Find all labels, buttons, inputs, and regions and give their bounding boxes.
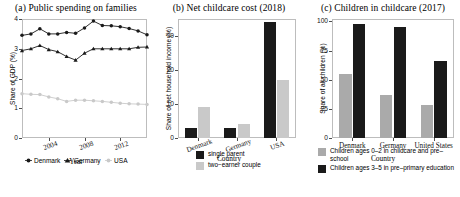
panel-c-legend: Children ages 0–2 in childcare and pre–s… (318, 147, 460, 175)
axis-tick (329, 51, 332, 52)
y-tick-label: 0 (307, 134, 328, 141)
bar-denmark-single-parent (185, 128, 197, 138)
data-point (47, 95, 51, 99)
legend-item[interactable]: Children ages 0–2 in childcare and pre–s… (318, 147, 460, 162)
legend-label: Denmark (34, 157, 60, 164)
bar-usa-two-earner-couple (277, 80, 289, 138)
legend-label: Germany (74, 157, 101, 164)
axis-tick (393, 138, 394, 141)
bar-denmark-children-ages-3-5-in-pre-primary-education (353, 24, 365, 138)
data-point (92, 19, 96, 23)
circle-marker-icon (25, 157, 32, 164)
data-point (56, 32, 60, 36)
legend-label: single parent (208, 150, 245, 158)
data-point (56, 97, 60, 101)
bar-germany-two-earner-couple (238, 124, 250, 138)
figure-three-panel-childcare: (a) Public spending on families Share of… (0, 0, 460, 197)
y-tick-label: 25 (307, 105, 328, 112)
panel-a-legend: DenmarkGermanyUSA (0, 157, 152, 164)
axis-tick (19, 79, 22, 80)
legend-item-denmark[interactable]: Denmark (25, 157, 61, 164)
data-point (38, 43, 42, 47)
legend-label: USA (114, 157, 127, 164)
data-point (20, 34, 24, 38)
data-point (145, 103, 149, 107)
data-point (47, 32, 51, 36)
y-tick-label: 0 (153, 134, 174, 141)
axis-tick (329, 80, 332, 81)
data-point (29, 32, 33, 36)
legend-swatch (318, 165, 326, 173)
data-point (101, 100, 105, 104)
data-point (127, 102, 131, 106)
axis-tick (434, 138, 435, 141)
legend-item-germany[interactable]: Germany (64, 157, 100, 164)
legend-label: Children ages 3–5 in pre–primary educati… (330, 164, 454, 172)
axis-tick (19, 49, 22, 50)
legend-label: two−earner couple (208, 161, 261, 169)
data-point (29, 93, 33, 97)
bar-germany-single-parent (224, 128, 236, 138)
y-tick-label: 1 (0, 104, 18, 111)
axis-tick (19, 138, 22, 139)
circle-marker-icon (105, 157, 112, 164)
data-point (145, 33, 149, 37)
y-tick-label: 75 (307, 47, 328, 54)
axis-tick (329, 109, 332, 110)
data-point (83, 26, 87, 30)
legend-swatch (318, 148, 326, 156)
triangle-marker-icon (64, 157, 71, 164)
panel-b-title: (b) Net childcare cost (2018) (152, 3, 306, 13)
legend-item[interactable]: Children ages 3–5 in pre–primary educati… (318, 164, 460, 173)
legend-swatch (196, 162, 204, 170)
data-point (92, 99, 96, 103)
axis-tick (175, 138, 178, 139)
panel-b-legend: single parenttwo−earner couple (196, 150, 301, 172)
axis-tick (19, 108, 22, 109)
y-tick-label: 100 (307, 17, 328, 24)
data-point (20, 92, 24, 96)
bar-denmark-two-earner-couple (198, 107, 210, 138)
panel-c-title: (c) Children in childcare (2017) (306, 3, 460, 13)
panel-b-net-childcare-cost: (b) Net childcare cost (2018) Share of n… (152, 0, 306, 197)
data-point (110, 101, 114, 105)
bar-usa-single-parent (264, 22, 276, 138)
data-point (65, 100, 69, 104)
y-tick-label: 4 (0, 15, 18, 22)
data-point (110, 24, 114, 28)
legend-label: Children ages 0–2 in childcare and pre–s… (330, 147, 460, 162)
data-point (136, 102, 140, 106)
bar-united-states-children-ages-0-2-in-childcare-and-pre-school (421, 105, 433, 138)
y-tick-label: 2 (0, 75, 18, 82)
data-point (127, 27, 131, 31)
data-point (38, 27, 42, 31)
bar-denmark-children-ages-0-2-in-childcare-and-pre-school (339, 74, 351, 138)
axis-tick (175, 104, 178, 105)
legend-swatch (196, 151, 204, 159)
data-point (83, 98, 87, 102)
data-point (118, 101, 122, 105)
legend-item[interactable]: two−earner couple (196, 161, 301, 170)
axis-tick (175, 36, 178, 37)
axis-tick (352, 138, 353, 141)
bar-united-states-children-ages-3-5-in-pre-primary-education (434, 61, 446, 138)
panel-c-children-in-childcare: (c) Children in childcare (2017) Share o… (306, 0, 460, 197)
data-point (118, 25, 122, 29)
bar-germany-children-ages-3-5-in-pre-primary-education (394, 27, 406, 138)
data-point (65, 31, 69, 35)
legend-item[interactable]: single parent (196, 150, 301, 159)
axis-tick (175, 70, 178, 71)
panel-a-series-layer (0, 0, 152, 197)
y-tick-label: 0 (0, 134, 18, 141)
data-point (74, 32, 78, 36)
y-tick-label: 30 (153, 32, 174, 39)
axis-tick (329, 21, 332, 22)
data-point (74, 98, 78, 102)
y-tick-label: 10 (153, 100, 174, 107)
panel-a-public-spending: (a) Public spending on families Share of… (0, 0, 152, 197)
axis-tick (329, 138, 332, 139)
legend-item-usa[interactable]: USA (105, 157, 128, 164)
bar-germany-children-ages-0-2-in-childcare-and-pre-school (380, 95, 392, 138)
data-point (136, 29, 140, 33)
y-tick-label: 20 (153, 66, 174, 73)
